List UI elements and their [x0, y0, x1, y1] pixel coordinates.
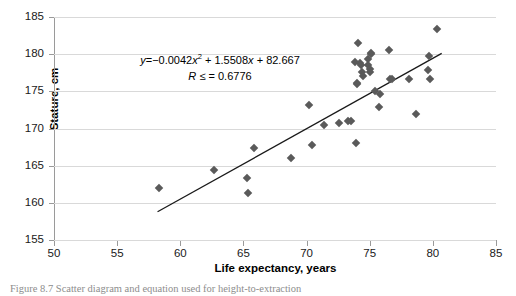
equation-line: y=−0.0042x2 + 1.5508x + 82.667: [120, 52, 320, 69]
y-tick-label: 185: [18, 11, 44, 23]
x-tick-label: 85: [476, 248, 516, 260]
x-tick-label: 60: [160, 248, 200, 260]
x-tick-mark: [117, 241, 118, 246]
x-tick-mark: [243, 241, 244, 246]
x-tick-label: 65: [223, 248, 263, 260]
r-value-line: R ≤ = 0.6776: [120, 69, 320, 85]
plot-area: [54, 17, 496, 240]
equation-x-var: x: [248, 54, 254, 66]
y-tick-label: 165: [18, 160, 44, 172]
x-tick-label: 75: [350, 248, 390, 260]
y-tick-label: 170: [18, 123, 44, 135]
x-tick-mark: [496, 241, 497, 246]
r-relation: ≤ =: [199, 70, 215, 82]
figure-caption: Figure 8.7 Scatter diagram and equation …: [10, 283, 490, 294]
equation-annotation: y=−0.0042x2 + 1.5508x + 82.667 R ≤ = 0.6…: [120, 52, 320, 85]
x-tick-label: 80: [413, 248, 453, 260]
x-tick-mark: [180, 241, 181, 246]
x-axis-title: Life expectancy, years: [54, 262, 497, 274]
y-tick-label: 160: [18, 197, 44, 209]
equation-coefficient-b: + 1.5508: [205, 54, 248, 66]
r-symbol: R: [188, 70, 196, 82]
equation-exponent: 2: [198, 52, 202, 61]
x-tick-label: 55: [97, 248, 137, 260]
r-value: 0.6776: [218, 70, 252, 82]
grid-line: [54, 240, 496, 241]
y-tick-label: 180: [18, 48, 44, 60]
figure-container: Stature, cm 155160165170175180185 505560…: [0, 0, 516, 296]
y-tick-label: 155: [18, 234, 44, 246]
x-tick-mark: [307, 241, 308, 246]
x-tick-mark: [433, 241, 434, 246]
x-tick-mark: [54, 241, 55, 246]
y-tick-label: 175: [18, 85, 44, 97]
x-tick-label: 50: [34, 248, 74, 260]
trend-line: [54, 17, 496, 240]
equation-constant: + 82.667: [257, 54, 300, 66]
x-tick-label: 70: [287, 248, 327, 260]
equation-coefficient-a: −0.0042: [152, 54, 192, 66]
x-tick-mark: [370, 241, 371, 246]
